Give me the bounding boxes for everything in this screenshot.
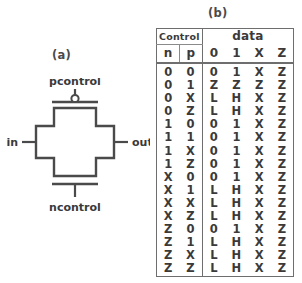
table-header-group-row: Control data xyxy=(157,29,294,45)
cell-control-p: X xyxy=(179,145,202,158)
header-col-data-0: 0 xyxy=(202,45,225,64)
cell-output: X xyxy=(248,158,271,171)
cell-control-n: Z xyxy=(157,262,180,276)
cell-control-p: Z xyxy=(179,158,202,171)
pmos-inversion-bubble-icon xyxy=(71,95,78,102)
table-row: 1X01XZ xyxy=(157,145,294,158)
cell-output: L xyxy=(202,184,225,197)
pin-label-ncontrol: ncontrol xyxy=(49,201,101,214)
header-control-group: Control xyxy=(157,29,203,45)
truth-table: Control data n p 0 1 X Z 0001XZ01ZZZZ0XL… xyxy=(156,28,294,277)
figure-b-caption: (b) xyxy=(208,6,228,20)
cell-output: 0 xyxy=(202,158,225,171)
table-row: 0ZLHXZ xyxy=(157,105,294,118)
cell-control-n: 0 xyxy=(157,63,180,79)
cell-control-p: 0 xyxy=(179,63,202,79)
cell-output: L xyxy=(202,262,225,276)
cell-output: X xyxy=(248,184,271,197)
truth-table-header: Control data n p 0 1 X Z xyxy=(157,29,294,64)
truth-table-body: 0001XZ01ZZZZ0XLHXZ0ZLHXZ1001XZ1101XZ1X01… xyxy=(157,63,294,276)
cell-output: 0 xyxy=(202,171,225,184)
table-row: Z001XZ xyxy=(157,223,294,236)
cell-control-n: X xyxy=(157,171,180,184)
table-row: 1Z01XZ xyxy=(157,158,294,171)
header-col-data-1: 1 xyxy=(225,45,248,64)
cell-output: X xyxy=(248,131,271,144)
cell-output: X xyxy=(248,171,271,184)
cell-output: 1 xyxy=(225,63,248,79)
pin-label-out: out xyxy=(132,136,150,149)
header-col-n: n xyxy=(157,45,180,64)
header-col-data-x: X xyxy=(248,45,271,64)
cell-output: Z xyxy=(271,63,294,79)
cell-output: 0 xyxy=(202,145,225,158)
table-row: 1101XZ xyxy=(157,131,294,144)
pin-label-pcontrol: pcontrol xyxy=(49,78,101,88)
truth-table-container: Control data n p 0 1 X Z 0001XZ01ZZZZ0XL… xyxy=(156,28,294,276)
cell-output: 1 xyxy=(225,171,248,184)
cell-output: 0 xyxy=(202,131,225,144)
figure-a-caption: (a) xyxy=(52,48,71,62)
table-row: XXLHXZ xyxy=(157,197,294,210)
cell-output: X xyxy=(248,145,271,158)
cell-control-n: 1 xyxy=(157,145,180,158)
table-row: X001XZ xyxy=(157,171,294,184)
cell-output: X xyxy=(248,262,271,276)
cell-output: 1 xyxy=(225,158,248,171)
cell-control-p: 1 xyxy=(179,131,202,144)
table-row: Z1LHXZ xyxy=(157,236,294,249)
table-row: 0XLHXZ xyxy=(157,92,294,105)
table-row: XZLHXZ xyxy=(157,210,294,223)
cell-control-n: 1 xyxy=(157,158,180,171)
header-data-group: data xyxy=(202,29,293,45)
cell-output: H xyxy=(225,262,248,276)
gate-body-cross xyxy=(36,108,114,176)
table-row: ZXLHXZ xyxy=(157,249,294,262)
table-row: X1LHXZ xyxy=(157,184,294,197)
cell-output: 1 xyxy=(225,131,248,144)
cell-output: Z xyxy=(271,158,294,171)
pin-label-in: in xyxy=(6,136,18,149)
cell-control-n: 1 xyxy=(157,131,180,144)
transmission-gate-diagram: in out pcontrol ncontrol xyxy=(0,78,150,228)
table-row: 01ZZZZ xyxy=(157,79,294,92)
cell-output: Z xyxy=(271,131,294,144)
cell-output: Z xyxy=(271,184,294,197)
cell-output: X xyxy=(248,63,271,79)
cell-output: 1 xyxy=(225,145,248,158)
cell-control-p: 1 xyxy=(179,184,202,197)
cell-control-p: 0 xyxy=(179,171,202,184)
table-row: 0001XZ xyxy=(157,63,294,79)
cell-output: Z xyxy=(271,171,294,184)
header-col-p: p xyxy=(179,45,202,64)
table-row: 1001XZ xyxy=(157,118,294,131)
cell-output: Z xyxy=(271,145,294,158)
table-header-sub-row: n p 0 1 X Z xyxy=(157,45,294,64)
cell-control-n: X xyxy=(157,184,180,197)
header-col-data-z: Z xyxy=(271,45,294,64)
cell-control-p: Z xyxy=(179,262,202,276)
table-row: ZZLHXZ xyxy=(157,262,294,276)
cell-output: Z xyxy=(271,262,294,276)
cell-output: H xyxy=(225,184,248,197)
cell-output: 0 xyxy=(202,63,225,79)
